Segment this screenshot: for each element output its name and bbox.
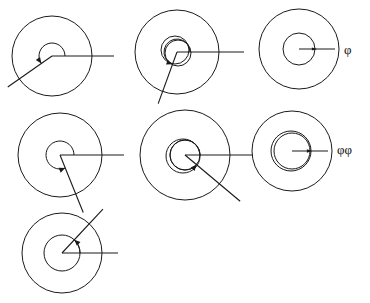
diagram-middle-right	[252, 111, 332, 191]
ray-arrowhead	[312, 47, 317, 50]
diagram-layer	[8, 9, 339, 293]
label-layer: φφφ	[337, 42, 352, 157]
angle-arc	[39, 43, 65, 63]
figure-canvas: φφφ	[0, 0, 370, 303]
angle-ray	[8, 56, 52, 87]
diagram-top-left	[8, 16, 114, 96]
diagram-bottom-left	[22, 209, 118, 293]
diagram-svg: φφφ	[0, 0, 370, 303]
arc-arrowhead	[59, 168, 66, 173]
label-phi-double: φφ	[337, 142, 352, 157]
label-phi-single: φ	[344, 42, 352, 57]
angle-ray	[62, 209, 103, 253]
diagram-middle-center	[140, 110, 253, 201]
angle-ray	[185, 155, 240, 201]
angle-ray	[60, 155, 83, 212]
diagram-middle-left	[18, 113, 124, 212]
arc-arrowhead	[74, 240, 80, 246]
diagram-top-right	[259, 9, 339, 89]
diagram-top-middle	[135, 10, 244, 104]
angle-ray	[158, 52, 177, 104]
